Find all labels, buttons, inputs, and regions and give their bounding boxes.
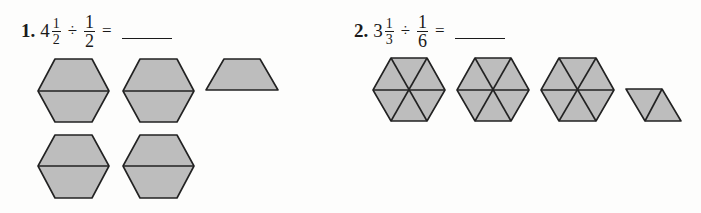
problem-2-figure	[373, 58, 681, 121]
halved-hexagon-4	[123, 135, 194, 198]
triangulated-hexagon-1	[373, 58, 445, 121]
pattern-block-figures	[0, 0, 701, 213]
triangulated-hexagon-3	[541, 58, 614, 121]
trapezoid-half-hexagon	[206, 59, 278, 90]
triangulated-hexagon-2	[457, 58, 529, 121]
halved-hexagon-3	[38, 135, 109, 198]
halved-hexagon-2	[123, 59, 194, 122]
rhombus-two-triangles	[626, 89, 681, 121]
halved-hexagon-1	[38, 59, 109, 122]
problem-1-figure	[38, 59, 278, 198]
